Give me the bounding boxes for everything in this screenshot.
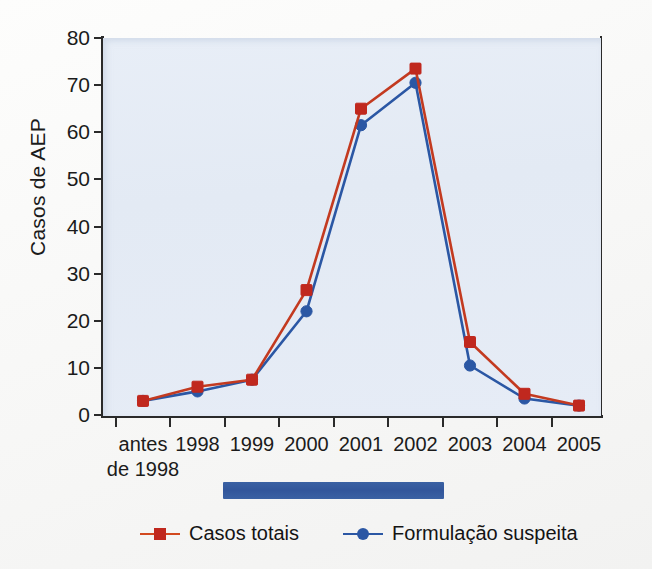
data-point-marker: [410, 63, 421, 74]
data-point-marker: [464, 360, 475, 371]
chart-figure: Casos de AEP 80706050403020100 antesde 1…: [0, 0, 652, 569]
legend-marker-square-icon: [154, 528, 166, 540]
legend-label: Casos totais: [189, 522, 299, 545]
data-point-marker: [465, 337, 476, 348]
legend-item-formulacao-suspeita[interactable]: Formulação suspeita: [343, 522, 578, 545]
data-point-marker: [247, 374, 258, 385]
data-point-marker: [356, 103, 367, 114]
legend-label: Formulação suspeita: [392, 522, 578, 545]
legend-swatch-square-icon: [140, 526, 180, 542]
series-formulacao-suspeita: [137, 77, 584, 411]
data-point-marker: [519, 388, 530, 399]
legend-item-casos-totais[interactable]: Casos totais: [140, 522, 299, 545]
legend-marker-circle-icon: [357, 528, 369, 540]
period-highlight-bar: [223, 482, 444, 499]
data-point-marker: [192, 381, 203, 392]
series-casos-totais: [138, 63, 585, 411]
data-point-marker: [301, 306, 312, 317]
data-point-marker: [301, 285, 312, 296]
data-point-marker: [574, 400, 585, 411]
data-point-marker: [138, 395, 149, 406]
legend-swatch-circle-icon: [343, 526, 383, 542]
chart-legend: Casos totaisFormulação suspeita: [140, 522, 578, 545]
